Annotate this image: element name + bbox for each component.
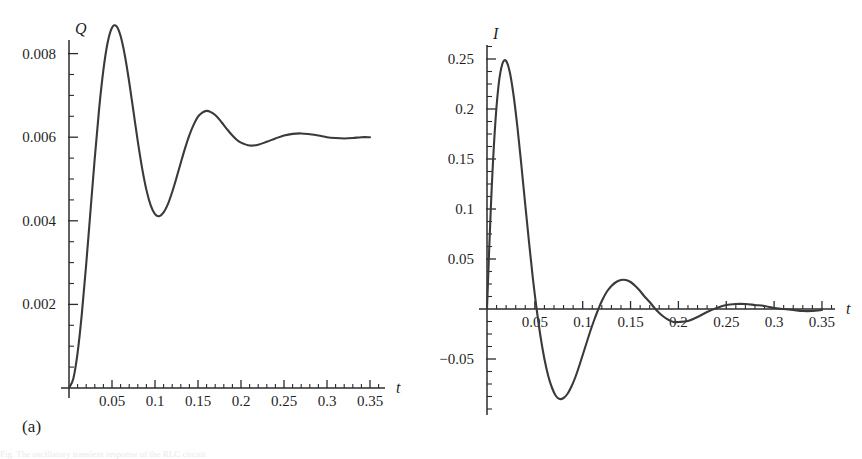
tick-label: 0.1 xyxy=(146,393,165,409)
chart-b-svg: 0.050.10.150.20.250.30.35−0.050.050.10.1… xyxy=(431,0,862,459)
tick-label: 0.05 xyxy=(99,393,125,409)
panel-caption-a: (a) xyxy=(22,417,41,437)
tick-label: 0.05 xyxy=(448,251,474,267)
tick-label: 0.15 xyxy=(448,151,474,167)
tick-label: 0.008 xyxy=(22,46,56,62)
tick-label: 0.004 xyxy=(22,213,56,229)
tick-label: 0.35 xyxy=(357,393,383,409)
chart-panel-b: 0.050.10.150.20.250.30.35−0.050.050.10.1… xyxy=(431,0,862,459)
chart-a-svg: 0.050.10.150.20.250.30.350.0020.0040.006… xyxy=(0,0,431,459)
tick-label: −0.05 xyxy=(439,351,474,367)
tick-label: 0.1 xyxy=(455,201,474,217)
data-curve xyxy=(69,25,370,388)
x-axis-label: t xyxy=(846,300,851,317)
chart-panel-a: 0.050.10.150.20.250.30.350.0020.0040.006… xyxy=(0,0,431,459)
tick-label: 0.1 xyxy=(573,314,592,330)
data-curve xyxy=(487,60,822,399)
y-axis-label: Q xyxy=(75,20,87,37)
tick-label: 0.2 xyxy=(232,393,251,409)
tick-label: 0.3 xyxy=(318,393,337,409)
tick-label: 0.15 xyxy=(617,314,643,330)
tick-label: 0.25 xyxy=(713,314,739,330)
y-axis-label: I xyxy=(492,25,499,42)
tick-label: 0.006 xyxy=(22,129,56,145)
figure-container: 0.050.10.150.20.250.30.350.0020.0040.006… xyxy=(0,0,862,459)
tick-label: 0.3 xyxy=(765,314,784,330)
tick-label: 0.002 xyxy=(22,296,56,312)
tick-label: 0.15 xyxy=(185,393,211,409)
x-axis-label: t xyxy=(396,379,401,396)
tick-label: 0.25 xyxy=(271,393,297,409)
tick-label: 0.35 xyxy=(809,314,835,330)
tick-label: 0.05 xyxy=(522,314,548,330)
tick-label: 0.25 xyxy=(448,51,474,67)
tick-label: 0.2 xyxy=(455,101,474,117)
cut-off-caption-line: Fig. The oscillatory transient response … xyxy=(0,450,862,459)
